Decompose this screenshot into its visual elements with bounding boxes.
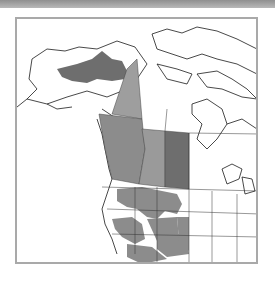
map-graphic	[17, 19, 258, 264]
shaded-western-us	[112, 187, 189, 264]
shaded-saskatchewan	[165, 131, 189, 189]
shaded-alaska	[57, 51, 127, 83]
map-frame: Range map: western North America	[15, 17, 258, 264]
shaded-british-columbia	[99, 114, 145, 184]
top-band	[0, 0, 275, 8]
